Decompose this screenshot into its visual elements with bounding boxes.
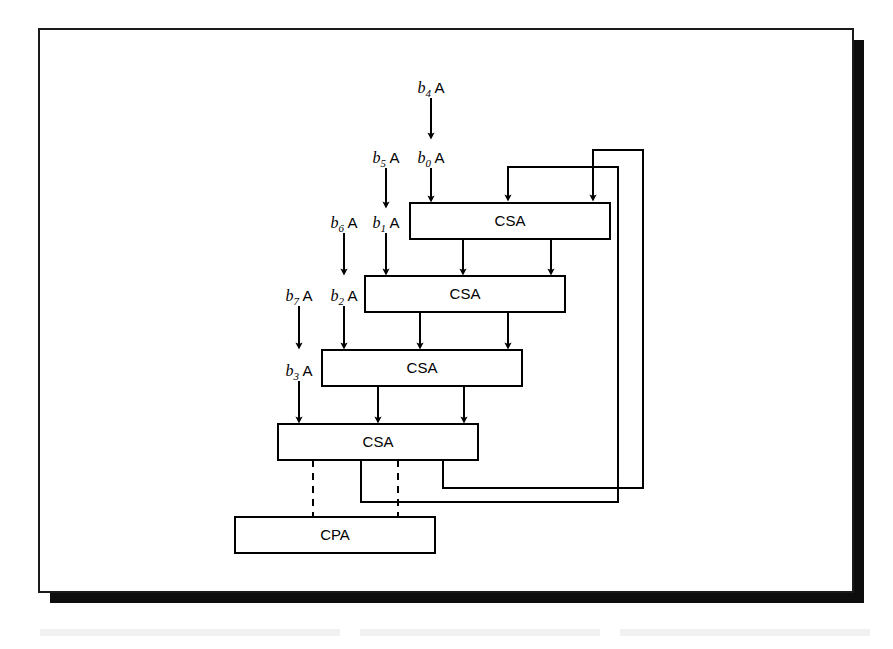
csa-block-2: CSA [365, 276, 565, 312]
figure-container: CSA CSA CSA CSA CPA [0, 0, 893, 649]
csa-block-3: CSA [322, 350, 522, 386]
csa-block-4: CSA [278, 424, 478, 460]
csa-block-3-label: CSA [407, 359, 438, 376]
cpa-block: CPA [235, 517, 435, 553]
csa-block-1-label: CSA [495, 212, 526, 229]
csa-block-diagram: CSA CSA CSA CSA CPA [0, 0, 893, 649]
scan-artifacts [40, 629, 870, 636]
csa-block-2-label: CSA [450, 285, 481, 302]
cpa-block-label: CPA [320, 526, 350, 543]
csa-block-1: CSA [410, 203, 610, 239]
csa-block-4-label: CSA [363, 433, 394, 450]
